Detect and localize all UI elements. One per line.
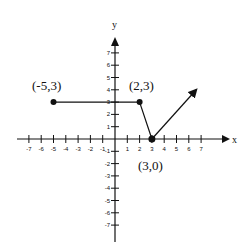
x-tick-label: 1 [126, 146, 130, 152]
ray-segment [152, 90, 196, 139]
y-tick-label: 4 [107, 87, 111, 93]
y-tick-label: -7 [105, 222, 111, 228]
x-tick-label: -2 [88, 146, 94, 152]
x-tick-label: -3 [75, 146, 81, 152]
x-tick-label: 5 [175, 146, 179, 152]
y-axis-arrow-icon [111, 37, 119, 46]
x-tick-label: 4 [163, 146, 167, 152]
x-tick-label: -4 [63, 146, 69, 152]
y-tick-label: 2 [107, 111, 111, 117]
y-tick-label: -3 [105, 173, 111, 179]
x-tick-label: 2 [138, 146, 142, 152]
y-tick-label: -2 [105, 161, 111, 167]
y-tick-label: -1 [105, 148, 111, 154]
coordinate-plane: x y -7-6-5-4-3-2-11234567-7-6-5-4-3-2-11… [0, 0, 250, 248]
point-a-label: (-5,3) [32, 78, 61, 93]
x-axis-arrow-icon [222, 135, 230, 143]
y-tick-label: -5 [105, 198, 111, 204]
x-tick-label: 7 [199, 146, 203, 152]
x-tick-label: -5 [51, 146, 57, 152]
x-tick-label: 6 [187, 146, 191, 152]
point-c [148, 136, 155, 143]
point-a [51, 99, 57, 105]
y-tick-label: 7 [107, 50, 111, 56]
segment-2 [140, 102, 152, 139]
x-tick-label: -6 [39, 146, 45, 152]
y-tick-label: 1 [107, 124, 111, 130]
x-tick-label: -7 [26, 146, 32, 152]
y-tick-label: 5 [107, 75, 111, 81]
x-tick-label: 3 [150, 146, 154, 152]
y-axis-label: y [112, 19, 117, 30]
point-b-label: (2,3) [129, 78, 154, 93]
x-axis-label: x [232, 134, 237, 145]
point-c-label: (3,0) [138, 158, 163, 173]
y-tick-label: 6 [107, 62, 111, 68]
y-tick-label: -4 [105, 185, 111, 191]
point-b [137, 99, 143, 105]
y-tick-label: -6 [105, 210, 111, 216]
